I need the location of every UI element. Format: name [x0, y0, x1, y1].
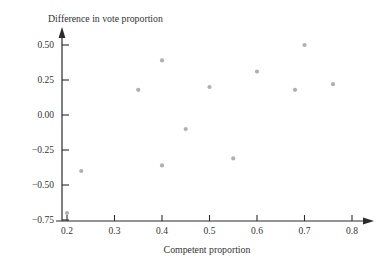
y-axis-arrowhead: [59, 27, 66, 38]
x-axis: [56, 218, 374, 225]
plot-canvas: 0.500.250.00−0.25−0.50−0.75 0.20.30.40.5…: [0, 0, 389, 261]
data-point: [255, 70, 259, 74]
data-point: [136, 88, 140, 92]
data-point: [160, 163, 164, 167]
data-point: [231, 156, 235, 160]
y-tick-label: −0.75: [32, 215, 54, 225]
x-axis-title: Competent proportion: [164, 244, 251, 255]
data-point: [293, 88, 297, 92]
x-tick-label: 0.2: [61, 226, 73, 236]
x-axis-arrowhead: [363, 218, 374, 225]
y-axis-ticks: 0.500.250.00−0.25−0.50−0.75: [32, 40, 69, 225]
y-tick-label: −0.50: [32, 180, 54, 190]
y-axis-title: Difference in vote proportion: [48, 13, 163, 24]
data-points: [65, 43, 335, 215]
data-point: [331, 82, 335, 86]
x-axis-ticks: 0.20.30.40.50.60.70.8: [61, 215, 358, 236]
y-axis: [59, 27, 66, 221]
y-tick-label: −0.25: [32, 145, 54, 155]
y-tick-label: 0.25: [37, 75, 54, 85]
x-tick-label: 0.4: [156, 226, 168, 236]
data-point: [207, 85, 211, 89]
data-point: [160, 58, 164, 62]
x-tick-label: 0.6: [251, 226, 263, 236]
data-point: [79, 169, 83, 173]
data-point: [302, 43, 306, 47]
x-tick-label: 0.8: [346, 226, 358, 236]
x-tick-label: 0.5: [204, 226, 216, 236]
y-tick-label: 0.50: [37, 40, 54, 50]
scatter-plot-figure: 0.500.250.00−0.25−0.50−0.75 0.20.30.40.5…: [0, 0, 389, 261]
data-point: [65, 211, 69, 215]
data-point: [184, 127, 188, 131]
x-tick-label: 0.7: [299, 226, 311, 236]
x-tick-label: 0.3: [109, 226, 121, 236]
y-tick-label: 0.00: [37, 110, 54, 120]
